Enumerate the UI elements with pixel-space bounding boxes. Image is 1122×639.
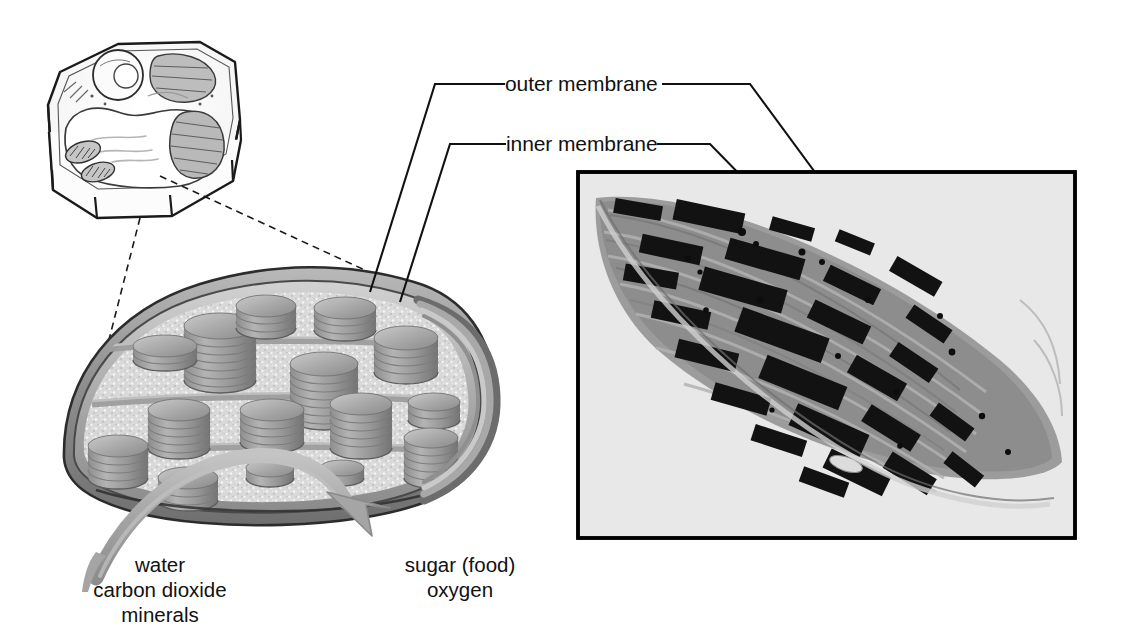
leader-outer-membrane-left bbox=[370, 84, 505, 292]
figure-canvas: outer membrane inner membrane water carb… bbox=[0, 0, 1122, 639]
granum bbox=[408, 393, 460, 429]
input-water: water bbox=[20, 552, 300, 577]
granum bbox=[88, 435, 148, 489]
input-carbon-dioxide: carbon dioxide bbox=[20, 577, 300, 602]
input-minerals: minerals bbox=[20, 602, 300, 627]
output-oxygen: oxygen bbox=[330, 577, 590, 602]
outputs-caption: sugar (food) oxygen bbox=[330, 552, 590, 602]
chloroplast-cutaway-illustration bbox=[64, 267, 496, 525]
leader-inner-membrane-left bbox=[400, 144, 506, 302]
granum bbox=[330, 393, 392, 459]
granum bbox=[314, 297, 376, 341]
inputs-caption: water carbon dioxide minerals bbox=[20, 552, 300, 627]
label-outer-membrane: outer membrane bbox=[505, 72, 658, 96]
granum bbox=[236, 295, 296, 339]
granum bbox=[148, 399, 210, 459]
cell-chloroplast-right bbox=[170, 111, 224, 178]
granum bbox=[240, 399, 304, 453]
granum bbox=[374, 326, 438, 384]
granum bbox=[133, 335, 197, 371]
plant-cell-line-drawing bbox=[48, 42, 241, 218]
output-sugar: sugar (food) bbox=[330, 552, 590, 577]
leader-lines-left bbox=[370, 84, 506, 302]
label-inner-membrane: inner membrane bbox=[506, 132, 658, 156]
chloroplast-electron-micrograph bbox=[578, 172, 1075, 538]
